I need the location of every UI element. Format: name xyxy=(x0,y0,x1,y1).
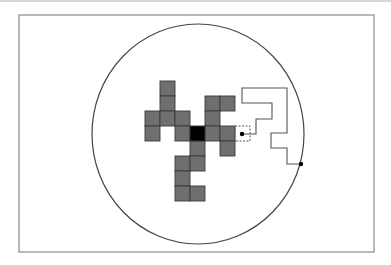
aggregate-cell xyxy=(175,126,190,141)
walker-start-dot xyxy=(299,162,303,166)
aggregate-cell xyxy=(160,96,175,111)
aggregate-cell xyxy=(160,111,175,126)
aggregate-cell xyxy=(145,126,160,141)
aggregate-cell xyxy=(205,126,220,141)
aggregate-cell xyxy=(175,111,190,126)
seed-cell xyxy=(190,126,205,141)
aggregate-cell xyxy=(190,186,205,201)
aggregate-cell xyxy=(220,141,235,156)
aggregate-cell xyxy=(145,111,160,126)
aggregate-cell xyxy=(160,81,175,96)
walker-end-dot xyxy=(240,132,244,136)
aggregate-cell xyxy=(205,96,220,111)
aggregate-cell xyxy=(220,126,235,141)
aggregate-cell xyxy=(190,156,205,171)
aggregate-cell xyxy=(175,186,190,201)
dla-diagram xyxy=(0,0,391,265)
aggregate-cell xyxy=(175,156,190,171)
aggregate-cell xyxy=(220,96,235,111)
aggregate-cell xyxy=(175,171,190,186)
aggregate-cell xyxy=(190,141,205,156)
aggregate-cell xyxy=(205,111,220,126)
